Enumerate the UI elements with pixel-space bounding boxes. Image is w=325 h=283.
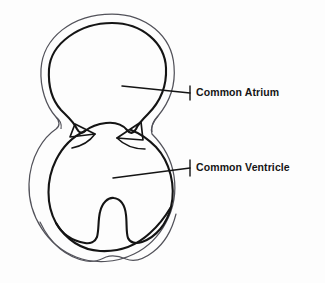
ventricle-chamber-outline [49,130,173,243]
heart-cross-section-diagram [0,0,325,283]
leader-line-atrium [122,86,190,93]
waist-right-notch [152,116,158,132]
atrium-chamber-outline [49,23,166,133]
outer-wall-contour [29,14,175,262]
figure-canvas: Common Atrium Common Ventricle [0,0,325,283]
label-common-atrium: Common Atrium [196,87,279,98]
leader-line-ventricle [113,168,190,178]
label-common-ventricle: Common Ventricle [196,162,290,173]
apex-inner-contour [56,207,171,251]
